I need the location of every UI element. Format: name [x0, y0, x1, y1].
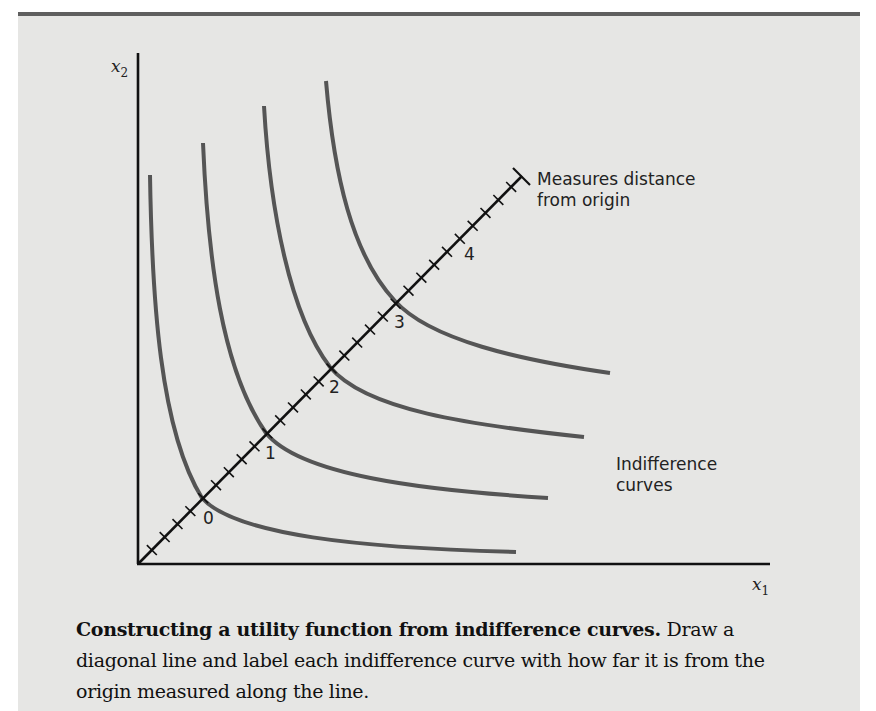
- x2-axis-label: x2: [111, 56, 128, 80]
- indifference-curve-diagram: x2 x1 0 1 2 3 4 Measures distance from o…: [0, 0, 876, 711]
- curve-label-0: 0: [203, 508, 214, 528]
- curves-annotation-line1: Indifference: [616, 454, 717, 474]
- caption-title: Constructing a utility function from ind…: [76, 618, 661, 640]
- diagonal-measure-line: [139, 176, 522, 563]
- curves-annotation-line2: curves: [616, 475, 673, 495]
- x1-axis-label: x1: [752, 574, 769, 598]
- figure-caption: Constructing a utility function from ind…: [76, 614, 816, 707]
- diagonal-annotation-line1: Measures distance: [537, 169, 696, 189]
- curve-label-3: 3: [394, 312, 405, 332]
- curve-label-4: 4: [464, 244, 475, 264]
- diagonal-annotation-line2: from origin: [537, 190, 630, 210]
- curve-label-1: 1: [265, 443, 276, 463]
- curve-label-2: 2: [329, 377, 340, 397]
